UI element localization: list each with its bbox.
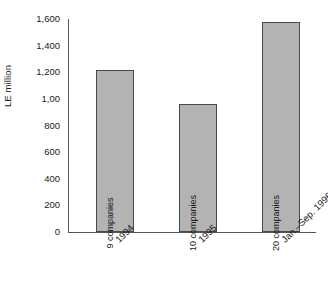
bar-value-label: 10 companies	[188, 195, 198, 251]
bar-value-label: 20 companies	[271, 195, 281, 251]
bar: 20 companies	[262, 22, 300, 232]
bar-chart-figure: LE million 02004006008001,001,2001,4001,…	[0, 0, 328, 300]
bar: 10 companies	[179, 104, 217, 232]
y-axis-tick-label: 200	[4, 200, 60, 210]
y-axis-tick-label: 600	[4, 147, 60, 157]
y-axis-tick-label: 0	[4, 227, 60, 237]
plot-area: 9 companies10 companies20 companies 1994…	[68, 19, 316, 232]
y-axis-title: LE million	[2, 46, 18, 126]
y-axis-tick-label: 1,200	[4, 67, 60, 77]
y-axis-tick-label: 400	[4, 174, 60, 184]
bar: 9 companies	[96, 70, 134, 232]
bar-value-label: 9 companies	[105, 197, 115, 248]
y-axis-tick-label: 1,00	[4, 94, 60, 104]
y-axis-tick-label: 1,600	[4, 14, 60, 24]
y-axis-line	[68, 19, 69, 232]
y-axis-tick-label: 1,400	[4, 41, 60, 51]
y-axis-tick-label: 800	[4, 121, 60, 131]
